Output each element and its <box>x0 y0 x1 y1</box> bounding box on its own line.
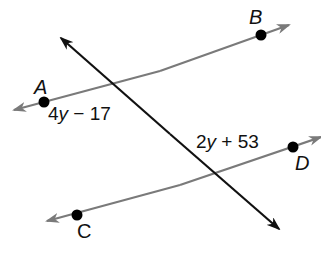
label-b: B <box>249 6 262 28</box>
geometry-diagram: A B C D 4y − 17 2y + 53 <box>0 0 321 255</box>
angle-label-right: 2y + 53 <box>196 131 259 152</box>
angle-right-coef: 2 <box>196 131 207 152</box>
point-c <box>72 210 83 221</box>
line-ab <box>160 25 289 71</box>
label-d: D <box>295 152 309 174</box>
label-c: C <box>77 220 91 242</box>
label-a: A <box>33 76 47 98</box>
line-cd-left <box>47 185 180 221</box>
angle-right-rest: + 53 <box>216 131 259 152</box>
angle-left-rest: − 17 <box>68 103 111 124</box>
angle-label-left: 4y − 17 <box>48 103 111 124</box>
angle-left-coef: 4 <box>48 103 59 124</box>
point-d <box>288 142 299 153</box>
point-b <box>256 30 267 41</box>
